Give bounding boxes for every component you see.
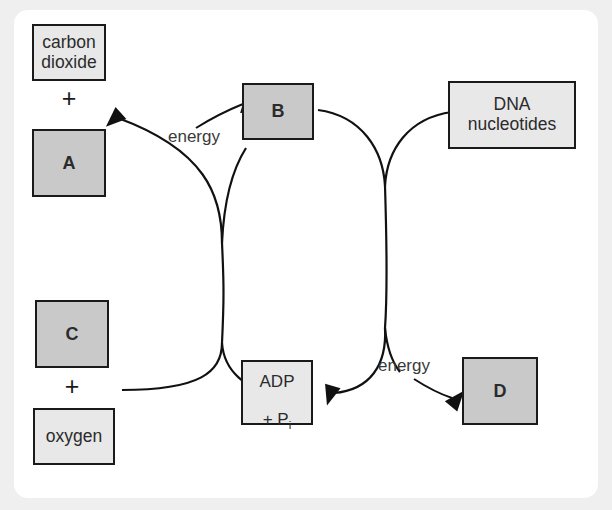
node-adp-label: ADP + Pi: [257, 352, 298, 433]
link-right-up-right: [385, 112, 452, 186]
node-oxygen[interactable]: oxygen: [33, 408, 115, 465]
energy-label-bottom: energy: [378, 356, 430, 376]
link-left-down: [122, 343, 222, 390]
node-adp-line2-prefix: + P: [263, 410, 289, 429]
node-c[interactable]: C: [35, 300, 109, 368]
node-carbon-dioxide[interactable]: carbon dioxide: [32, 24, 106, 81]
node-oxygen-label: oxygen: [43, 427, 105, 447]
arrowhead-right-down-left: [325, 382, 342, 405]
node-d-label: D: [491, 381, 510, 402]
link-energy-top: [196, 104, 243, 128]
plus-left-top: +: [32, 86, 106, 111]
node-adp-line2-subscript: i: [289, 420, 292, 432]
node-dna-nucleotides[interactable]: DNA nucleotides: [448, 81, 576, 149]
node-adp-line1: ADP: [260, 372, 295, 391]
node-carbon-dioxide-label: carbon dioxide: [38, 33, 99, 73]
node-dna-nucleotides-label: DNA nucleotides: [465, 95, 560, 135]
node-c-label: C: [63, 324, 82, 345]
link-right-up-left: [318, 110, 385, 186]
arrowhead-energy-bottom: [443, 386, 464, 412]
energy-label-top: energy: [168, 127, 220, 147]
diagram-stage: carbon dioxide + A C + oxygen B ADP + Pi…: [0, 0, 612, 510]
node-a[interactable]: A: [32, 129, 106, 197]
node-d[interactable]: D: [462, 357, 538, 425]
link-left-trunk: [222, 243, 224, 343]
node-b[interactable]: B: [242, 83, 314, 140]
node-adp[interactable]: ADP + Pi: [241, 360, 313, 425]
link-energy-bottom: [414, 379, 452, 398]
arrowhead-left-up: [106, 107, 129, 133]
link-right-trunk: [385, 186, 387, 328]
node-a-label: A: [60, 153, 79, 174]
link-left-up-right: [222, 148, 246, 243]
node-b-label: B: [269, 101, 288, 122]
plus-left-bottom: +: [35, 374, 109, 399]
